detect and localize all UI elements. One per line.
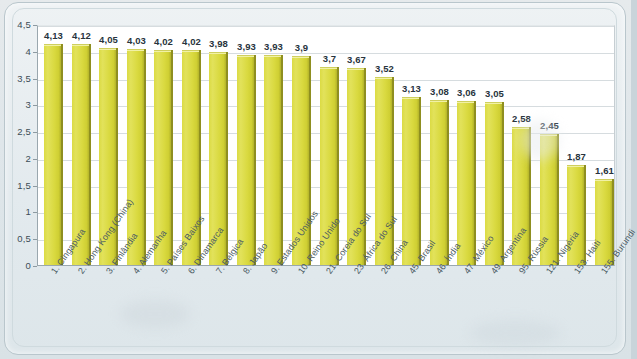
bar-rect bbox=[44, 44, 63, 265]
y-axis-tick-label: 2,5 bbox=[2, 126, 31, 137]
bar-top-cap bbox=[402, 97, 419, 99]
bar-top-cap bbox=[375, 77, 392, 79]
bar[interactable]: 3,08 bbox=[430, 24, 449, 265]
y-axis-tick-label: 4 bbox=[2, 46, 31, 57]
bar-top-cap bbox=[320, 67, 337, 69]
y-axis-tick-label: 3 bbox=[2, 99, 31, 110]
bar-rect bbox=[457, 101, 476, 265]
bar-top-cap bbox=[595, 179, 612, 181]
bar-value-label: 3,7 bbox=[323, 53, 337, 64]
x-axis-category-labels: 1. Cingapura2. Hong Kong (China)3. Finlâ… bbox=[37, 268, 627, 356]
bar-top-cap bbox=[430, 100, 447, 102]
bar-value-label: 1,61 bbox=[595, 165, 614, 176]
bar-top-cap bbox=[44, 44, 61, 46]
bar-value-label: 3,06 bbox=[457, 87, 476, 98]
bar-value-label: 3,9 bbox=[295, 42, 309, 53]
bar-top-cap bbox=[567, 165, 584, 167]
bar-value-label: 4,13 bbox=[44, 30, 63, 41]
bar-value-label: 3,93 bbox=[264, 41, 283, 52]
bar[interactable]: 3,05 bbox=[485, 24, 504, 265]
bar[interactable]: 4,03 bbox=[127, 24, 146, 265]
bar[interactable]: 3,06 bbox=[457, 24, 476, 265]
bar-top-cap bbox=[127, 49, 144, 51]
bar-value-label: 3,08 bbox=[430, 86, 449, 97]
bar-top-cap bbox=[237, 55, 254, 57]
bar-top-cap bbox=[182, 50, 199, 52]
bar-value-label: 2,45 bbox=[540, 120, 559, 131]
bar[interactable]: 1,61 bbox=[595, 24, 614, 265]
bar-value-label: 4,12 bbox=[72, 30, 91, 41]
y-axis-tick-label: 1,5 bbox=[2, 180, 31, 191]
bar-value-label: 4,02 bbox=[182, 36, 201, 47]
bar-value-label: 4,02 bbox=[154, 36, 173, 47]
bar[interactable]: 3,13 bbox=[402, 24, 421, 265]
y-axis-tick-label: 2 bbox=[2, 153, 31, 164]
bar-value-label: 4,03 bbox=[127, 35, 146, 46]
bar[interactable]: 3,93 bbox=[264, 24, 283, 265]
bar-top-cap bbox=[457, 101, 474, 103]
y-axis-tick-label: 3,5 bbox=[2, 73, 31, 84]
bar-top-cap bbox=[209, 52, 226, 54]
bar-rect bbox=[237, 55, 256, 265]
bar-top-cap bbox=[99, 48, 116, 50]
bar-top-cap bbox=[264, 55, 281, 57]
bar-rect bbox=[264, 55, 283, 265]
bar-value-label: 3,13 bbox=[402, 83, 421, 94]
bar[interactable]: 2,45 bbox=[540, 24, 559, 265]
y-axis-tick-mark bbox=[33, 266, 37, 267]
bar-top-cap bbox=[485, 102, 502, 104]
bar[interactable]: 3,93 bbox=[237, 24, 256, 265]
bar-value-label: 3,98 bbox=[209, 38, 228, 49]
y-axis-tick-label: 0,5 bbox=[2, 233, 31, 244]
bar[interactable]: 4,13 bbox=[44, 24, 63, 265]
bar-value-label: 2,58 bbox=[512, 113, 531, 124]
y-axis-tick-label: 0 bbox=[2, 260, 31, 271]
bar[interactable]: 4,02 bbox=[154, 24, 173, 265]
y-axis-tick-label: 1 bbox=[2, 206, 31, 217]
y-axis-tick-label: 4,5 bbox=[2, 19, 31, 30]
bar-top-cap bbox=[540, 134, 557, 136]
bar-value-label: 1,87 bbox=[567, 151, 586, 162]
bar-top-cap bbox=[72, 44, 89, 46]
bar[interactable]: 1,87 bbox=[567, 24, 586, 265]
bar-value-label: 3,52 bbox=[375, 63, 394, 74]
bar-value-label: 3,67 bbox=[347, 54, 366, 65]
bar-top-cap bbox=[154, 50, 171, 52]
bar-value-label: 4,05 bbox=[99, 34, 118, 45]
bar-value-label: 3,93 bbox=[237, 41, 256, 52]
bar-top-cap bbox=[512, 127, 529, 129]
bar-top-cap bbox=[347, 68, 364, 70]
bar-value-label: 3,05 bbox=[485, 88, 504, 99]
bar-top-cap bbox=[292, 56, 309, 58]
